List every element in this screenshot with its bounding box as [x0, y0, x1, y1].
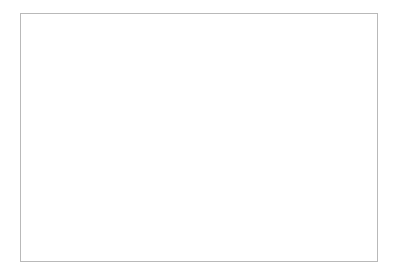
- chart-container: 02004006008001000120014001600 JanuaryFeb…: [0, 0, 395, 276]
- figure-border: [20, 13, 378, 262]
